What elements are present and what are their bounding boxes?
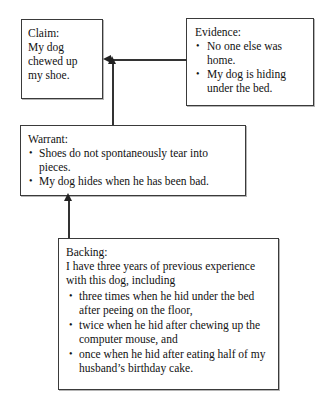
backing-bullet-3: once when he hid after eating half of my… (66, 347, 274, 375)
claim-box: Claim: My dog chewed up my shoe. (21, 19, 103, 99)
backing-box: Backing: I have three years of previous … (58, 238, 279, 390)
backing-bullet-1: three times when he hid under the bed af… (66, 289, 274, 317)
backing-bullet-list: three times when he hid under the bed af… (66, 289, 274, 375)
backing-intro: I have three years of previous experienc… (66, 259, 274, 287)
claim-line-2: chewed up (28, 54, 102, 68)
warrant-to-claim-line (112, 60, 114, 125)
backing-bullet-2: twice when he hid after chewing up the c… (66, 318, 274, 346)
claim-title: Claim: (28, 26, 102, 40)
warrant-bullet-2: My dog hides when he has been bad. (28, 174, 241, 188)
claim-line-3: my shoe. (28, 68, 102, 82)
backing-to-warrant-arrowhead (64, 193, 72, 201)
evidence-to-claim-line (111, 59, 187, 61)
backing-title: Backing: (66, 245, 274, 259)
evidence-bullet-1: No one else was home. (195, 39, 309, 67)
warrant-bullet-list: Shoes do not spontaneously tear into pie… (28, 146, 241, 188)
evidence-bullet-list: No one else was home. My dog is hiding u… (195, 39, 309, 95)
claim-line-1: My dog (28, 40, 102, 54)
warrant-to-claim-arrowhead (108, 56, 116, 64)
toulmin-argument-diagram: Claim: My dog chewed up my shoe. Evidenc… (0, 0, 333, 415)
backing-to-warrant-line (68, 198, 70, 238)
warrant-title: Warrant: (28, 132, 241, 146)
evidence-title: Evidence: (195, 25, 309, 39)
evidence-bullet-2: My dog is hiding under the bed. (195, 67, 309, 95)
evidence-box: Evidence: No one else was home. My dog i… (186, 18, 314, 106)
warrant-bullet-1: Shoes do not spontaneously tear into pie… (28, 146, 241, 174)
warrant-box: Warrant: Shoes do not spontaneously tear… (20, 125, 246, 196)
